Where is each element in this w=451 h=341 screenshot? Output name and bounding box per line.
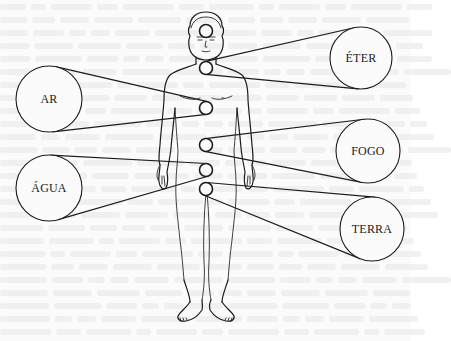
- element-eter: ÉTER: [330, 27, 392, 89]
- body-point-sacral: [200, 164, 213, 177]
- body-point-root: [200, 183, 213, 196]
- element-ar: AR: [16, 66, 82, 132]
- bleed-word: [410, 121, 427, 127]
- body-side-right: [228, 108, 237, 280]
- mouth: [202, 51, 210, 52]
- body-point-crown: [200, 25, 213, 38]
- torso-left: [159, 64, 196, 189]
- element-agua: ÁGUA: [16, 155, 82, 221]
- right-foot: [210, 300, 235, 321]
- connector-agua-b: [51, 155, 207, 163]
- connector-terra-a: [207, 183, 375, 198]
- torso-right: [216, 64, 253, 189]
- right-hand: [247, 165, 255, 186]
- element-label-fogo: FOGO: [351, 144, 385, 158]
- body-point-throat: [200, 62, 213, 75]
- connector-eter-b: [205, 74, 358, 88]
- bleed-word: [409, 186, 424, 192]
- element-label-agua: ÁGUA: [31, 181, 67, 195]
- element-terra: TERRA: [340, 197, 404, 261]
- body-points: [200, 25, 213, 196]
- leg-inner-right: [207, 192, 211, 300]
- element-label-terra: TERRA: [352, 222, 392, 236]
- bleed-word: [404, 69, 451, 75]
- body-point-solar-plexus: [200, 139, 213, 152]
- leg-outer-right: [222, 280, 228, 302]
- connector-terra-b: [204, 195, 360, 259]
- bleed-word: [408, 147, 451, 153]
- element-label-ar: AR: [40, 92, 57, 106]
- nose: [205, 41, 207, 47]
- leg-outer-left: [184, 280, 190, 302]
- leg-inner-left: [202, 192, 206, 300]
- element-fogo: FOGO: [336, 119, 400, 183]
- body-point-chest: [200, 102, 213, 115]
- left-hand: [157, 165, 165, 186]
- body-side-left: [175, 108, 184, 280]
- left-foot: [178, 300, 203, 321]
- element-label-eter: ÉTER: [346, 51, 377, 65]
